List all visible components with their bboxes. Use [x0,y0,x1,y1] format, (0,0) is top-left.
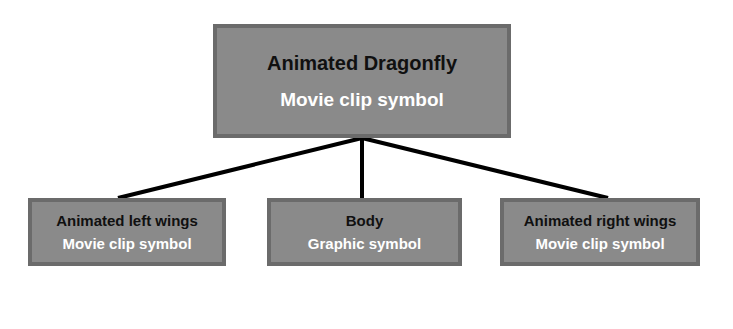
node-title: Animated right wings [524,213,677,229]
node-body[interactable]: Body Graphic symbol [267,198,462,266]
node-subtitle: Graphic symbol [308,236,421,252]
node-title: Animated Dragonfly [267,53,457,74]
node-animated-right-wings[interactable]: Animated right wings Movie clip symbol [500,198,700,266]
node-animated-dragonfly[interactable]: Animated Dragonfly Movie clip symbol [213,24,511,138]
node-subtitle: Movie clip symbol [535,236,664,252]
connector-root-to-right-wings [362,138,608,198]
node-subtitle: Movie clip symbol [280,90,444,110]
node-title: Animated left wings [56,213,198,229]
node-title: Body [346,213,384,229]
diagram-canvas: Animated Dragonfly Movie clip symbol Ani… [0,0,733,329]
node-subtitle: Movie clip symbol [62,236,191,252]
connector-root-to-left-wings [118,138,362,198]
node-animated-left-wings[interactable]: Animated left wings Movie clip symbol [28,198,226,266]
